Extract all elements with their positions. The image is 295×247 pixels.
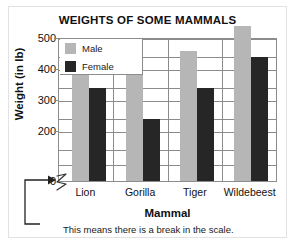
x-axis-label: Mammal [58,207,277,219]
x-tick-lion: Lion [58,186,113,202]
y-tick-200: 200 [20,125,56,137]
bar-lion-female [89,88,106,181]
y-tick-400: 400 [20,63,56,75]
y-tick-300: 300 [20,94,56,106]
group-separator-2 [168,39,169,181]
legend-label-female: Female [82,61,114,72]
group-separator-3 [222,39,223,181]
bar-tiger-male [180,51,197,181]
chart-legend: Male Female [60,39,143,75]
bar-tiger-female [197,88,214,181]
y-axis-tick-labels: 500 400 300 200 0 [14,38,56,182]
chart-title: WEIGHTS OF SOME MAMMALS [0,14,295,26]
x-tick-wildebeest: Wildebeest [222,186,277,202]
legend-swatch-female-icon [65,61,76,72]
y-tick-500: 500 [20,32,56,44]
legend-item-female: Female [60,57,142,75]
legend-swatch-male-icon [65,43,76,54]
legend-label-male: Male [82,43,103,54]
legend-item-male: Male [60,39,142,57]
x-tick-tiger: Tiger [168,186,223,202]
bar-gorilla-female [143,119,160,181]
bar-lion-male [72,57,89,181]
bar-wildebeest-male [234,26,251,181]
x-axis-tick-labels: Lion Gorilla Tiger Wildebeest [58,186,277,202]
scale-break-annotation: This means there is a break in the scale… [63,224,234,235]
bar-wildebeest-female [251,57,268,181]
chart-figure: WEIGHTS OF SOME MAMMALS Weight (in lb) 5… [0,0,295,247]
x-tick-gorilla: Gorilla [113,186,168,202]
